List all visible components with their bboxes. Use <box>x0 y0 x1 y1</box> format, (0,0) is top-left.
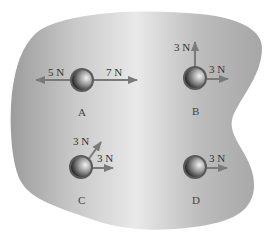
surface-svg <box>0 0 276 242</box>
force-label-b-right: 3 N <box>209 64 225 75</box>
puck-c-body <box>71 157 91 177</box>
force-label-c-diagonal: 3 N <box>73 136 89 147</box>
puck-d-body <box>185 157 205 177</box>
puck-b-body <box>185 68 205 88</box>
force-label-a-left: 5 N <box>48 67 64 78</box>
force-label-c-right: 3 N <box>97 153 113 164</box>
force-diagram: 5 N 7 N 3 N 3 N 3 N 3 N 3 N A B C D <box>0 0 276 242</box>
frictionless-surface <box>11 11 262 229</box>
force-label-d-right: 3 N <box>209 153 225 164</box>
force-label-b-up: 3 N <box>174 42 190 53</box>
puck-a-body <box>72 70 92 90</box>
puck-label-a: A <box>78 107 86 118</box>
puck-label-c: C <box>78 195 85 206</box>
force-label-a-right: 7 N <box>106 67 122 78</box>
puck-label-b: B <box>192 106 199 117</box>
puck-label-d: D <box>192 195 200 206</box>
